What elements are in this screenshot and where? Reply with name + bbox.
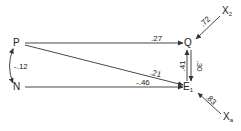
node-x2-subscript: 2: [229, 11, 232, 17]
node-x2-label: X: [222, 5, 229, 16]
node-x2: X2: [222, 6, 232, 16]
node-p: P: [13, 38, 20, 48]
node-e1-label: E: [183, 81, 190, 92]
coef-p-q: .27: [151, 35, 162, 43]
coef-p-n: -.12: [14, 63, 28, 71]
node-xa-subscript: a: [230, 117, 233, 123]
node-n: N: [13, 82, 20, 92]
path-diagram: P N Q E1 X2 Xa .27 .21 -.46 -.12 .41 .30…: [0, 0, 241, 131]
arrow-p-n-correlation: [10, 49, 14, 83]
node-xa-label: X: [223, 111, 230, 122]
node-q: Q: [184, 38, 192, 48]
coef-q-e1: .30: [195, 60, 203, 71]
node-e1-subscript: 1: [190, 87, 193, 93]
coef-n-e1: -.46: [136, 79, 150, 87]
node-e1: E1: [183, 82, 193, 92]
coef-e1-q: .41: [179, 60, 187, 71]
node-xa: Xa: [223, 112, 233, 122]
